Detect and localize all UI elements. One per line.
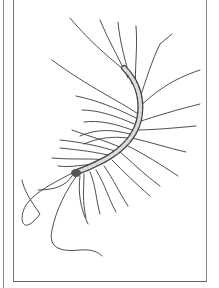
- centipede-illustration: [0, 0, 219, 288]
- antenna-left: [22, 172, 74, 225]
- centipede-head: [71, 169, 81, 177]
